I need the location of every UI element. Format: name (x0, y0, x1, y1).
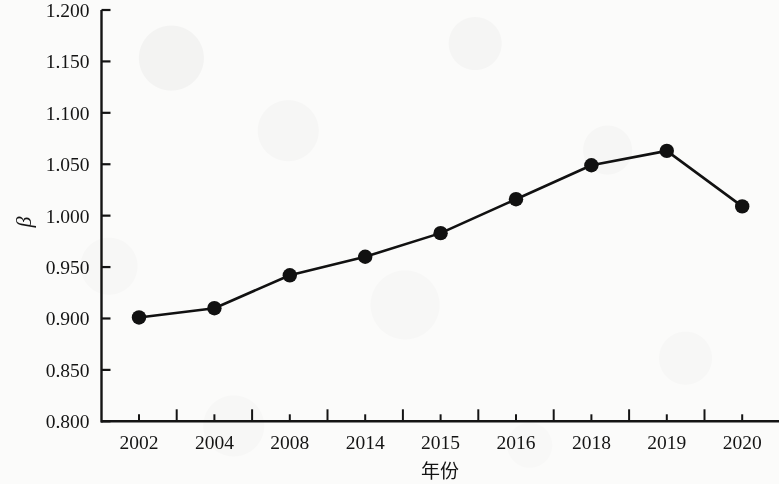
y-axis-tick-label: 0.800 (46, 411, 90, 432)
y-axis-ticks (102, 10, 111, 421)
y-axis-tick-label: 0.900 (46, 308, 90, 329)
y-axis-tick-label: 1.050 (46, 154, 90, 175)
y-axis-tick-label: 1.200 (46, 0, 90, 21)
x-axis-tick-label: 2020 (723, 432, 762, 453)
data-point-markers: 2002: 0.9012004: 0.9102008: 0.9422014: 0… (132, 144, 750, 325)
x-axis-tick-label: 2015 (421, 432, 460, 453)
x-axis-tick-labels: 200220042008201420152016201820192020 (120, 432, 762, 453)
x-axis-tick-label: 2002 (120, 432, 159, 453)
y-axis-tick-label: 1.150 (46, 51, 90, 72)
y-axis-tick-label: 1.100 (46, 103, 90, 124)
y-axis-tick-label: 1.000 (46, 206, 90, 227)
chart-canvas: 0.8000.8500.9000.9501.0001.0501.1001.150… (0, 0, 779, 484)
data-point-marker: 2002: 0.901 (132, 310, 146, 324)
data-point-marker: 2016: 1.016 (509, 192, 523, 206)
data-point-marker: 2019: 1.063 (660, 144, 674, 158)
plot-area (101, 10, 779, 422)
data-point-marker: 2014: 0.960 (358, 250, 372, 264)
y-axis-tick-labels: 0.8000.8500.9000.9501.0001.0501.1001.150… (46, 0, 90, 432)
y-axis-tick-label: 0.850 (46, 360, 90, 381)
x-axis-tick-label: 2014 (346, 432, 385, 453)
data-point-marker: 2008: 0.942 (283, 268, 297, 282)
x-axis-tick-label: 2016 (497, 432, 536, 453)
data-point-marker: 2018: 1.049 (584, 158, 598, 172)
x-axis-ticks (139, 409, 742, 421)
y-axis-title: β (11, 216, 36, 228)
y-axis-tick-label: 0.950 (46, 257, 90, 278)
x-axis-tick-label: 2004 (195, 432, 234, 453)
x-axis-tick-label: 2018 (572, 432, 611, 453)
x-axis-tick-label: 2008 (270, 432, 309, 453)
data-point-marker: 2015: 0.983 (433, 226, 447, 240)
x-axis-tick-label: 2019 (647, 432, 686, 453)
x-axis-title: 年份 (421, 460, 459, 482)
data-point-marker: 2020: 1.009 (735, 199, 749, 213)
line-chart: 0.8000.8500.9000.9501.0001.0501.1001.150… (0, 0, 779, 484)
data-point-marker: 2004: 0.910 (207, 301, 221, 315)
